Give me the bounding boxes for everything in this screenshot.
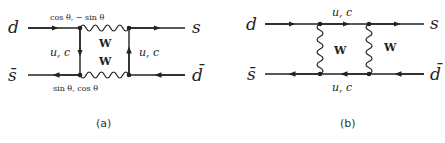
vertex-dot [78, 26, 83, 31]
caption-a: (a) [96, 117, 111, 130]
quark-d-in-label: d [246, 14, 257, 34]
antiquark-d-out-label: d̄ [192, 63, 205, 85]
bottom-propagator-label: u, c [332, 81, 352, 94]
w-boson-left [317, 24, 323, 74]
w-boson-bottom [80, 72, 129, 78]
antiquark-d-out-label: d̄ [430, 62, 443, 84]
w-label-bottom: W [98, 55, 112, 68]
vertex-dot [318, 72, 323, 77]
top-propagator-label: u, c [332, 6, 352, 19]
w-boson-top [80, 25, 129, 31]
w-label-top: W [98, 37, 112, 50]
w-label-right: W [383, 41, 397, 54]
vertex-dot [127, 73, 132, 78]
left-propagator-label: u, c [50, 46, 70, 59]
vertex-dot [367, 72, 372, 77]
w-boson-right [366, 24, 372, 74]
right-propagator-label: u, c [139, 46, 159, 59]
vertex-dot [127, 26, 132, 31]
bottom-coupling-label: sin θ, cos θ [53, 84, 98, 93]
vertex-dot [318, 22, 323, 27]
antiquark-s-in-label: s̄ [8, 65, 17, 85]
feynman-box-diagrams: d s̄ s d̄ cos θ, − sin θ sin θ, cos θ u,… [0, 0, 445, 143]
diagram-b: d s̄ s d̄ u, c u, c W W (b) [246, 6, 443, 130]
caption-b: (b) [340, 117, 356, 130]
diagram-a: d s̄ s d̄ cos θ, − sin θ sin θ, cos θ u,… [8, 13, 205, 130]
vertex-dot [78, 73, 83, 78]
top-coupling-label: cos θ, − sin θ [50, 13, 104, 22]
w-label-left: W [333, 44, 347, 57]
vertex-dot [367, 22, 372, 27]
quark-s-out-label: s [192, 17, 201, 37]
antiquark-s-in-label: s̄ [247, 64, 256, 84]
quark-s-out-label: s [430, 13, 439, 33]
quark-d-in-label: d [8, 17, 19, 37]
